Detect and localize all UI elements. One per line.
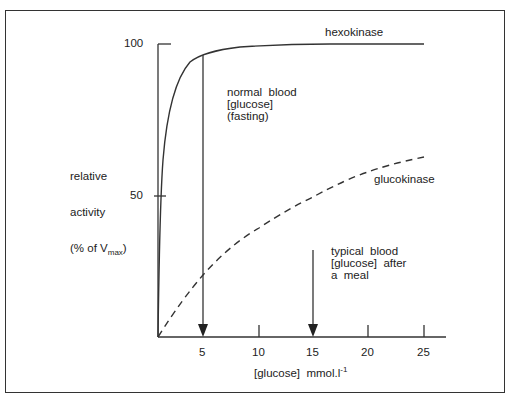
x-tick-5: 5 [199, 346, 205, 358]
meal-arrow [308, 250, 318, 337]
x-label-sup: -1 [340, 365, 347, 374]
x-axis-label: [glucose] mmol.l-1 [254, 364, 347, 379]
y-tick-100: 100 [124, 37, 143, 49]
y-tick-50: 50 [130, 189, 143, 201]
y-axis-label-line2: activity [70, 206, 127, 218]
y-label-post: ) [123, 242, 127, 254]
x-label-text: [glucose] mmol.l [254, 367, 340, 379]
fasting-arrow [198, 55, 208, 337]
x-tick-15: 15 [306, 346, 319, 358]
fasting-annotation: normal blood [glucose] (fasting) [227, 86, 297, 122]
y-axis-label: relative activity (% of Vmax) [70, 146, 127, 271]
meal-annotation: typical blood [glucose] after a meal [331, 245, 406, 281]
y-label-pre: (% of V [70, 242, 108, 254]
y-axis-label-line1: relative [70, 170, 127, 182]
x-tick-10: 10 [252, 346, 265, 358]
glucokinase-label: glucokinase [374, 173, 435, 185]
y-axis-label-line3: (% of Vmax) [70, 242, 127, 259]
y-label-sub: max [108, 248, 123, 257]
hexokinase-label: hexokinase [325, 26, 383, 38]
x-tick-20: 20 [361, 346, 374, 358]
y-axis [154, 44, 171, 337]
x-tick-25: 25 [417, 346, 430, 358]
